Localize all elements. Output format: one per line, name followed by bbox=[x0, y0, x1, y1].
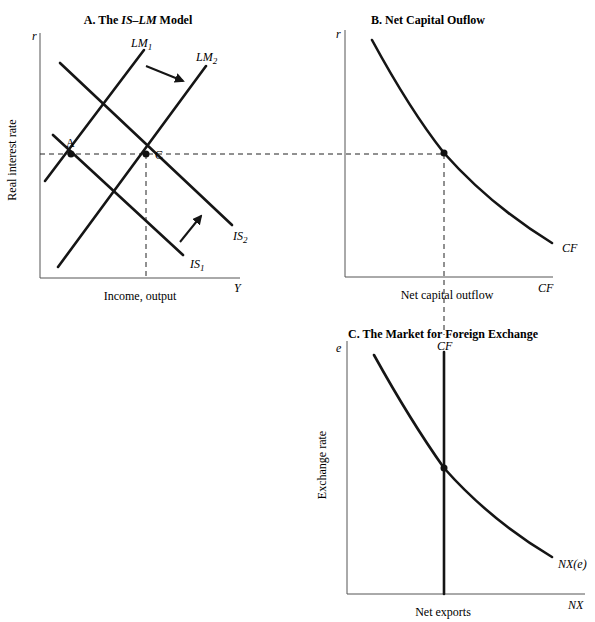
cf-curve bbox=[372, 40, 552, 243]
panel-c-foreign-exchange: C. The Market for Foreign Exchange e NX … bbox=[315, 327, 587, 619]
panel-b-equilibrium-marker bbox=[441, 150, 448, 157]
panel-a-x-label: Income, output bbox=[104, 289, 177, 303]
nx-curve bbox=[374, 355, 552, 557]
is1-label: IS1 bbox=[189, 257, 205, 273]
panel-c-y-symbol: e bbox=[336, 341, 342, 355]
panel-b-title: B. Net Capital Ouflow bbox=[371, 13, 485, 27]
is-shift-arrow-icon bbox=[180, 216, 201, 242]
point-a-label: A bbox=[66, 136, 75, 150]
panel-c-x-symbol: NX bbox=[567, 598, 584, 612]
panel-a-title: A. The IS–LM Model bbox=[84, 13, 193, 27]
lm1-curve bbox=[45, 50, 144, 181]
lm1-label: LM1 bbox=[130, 36, 152, 52]
panel-a-y-label: Real interest rate bbox=[5, 119, 19, 200]
figure: A. The IS–LM Model r Y Real interest rat… bbox=[0, 0, 595, 622]
panel-b-x-symbol: CF bbox=[538, 281, 554, 295]
panel-c-y-label: Exchange rate bbox=[315, 431, 329, 499]
point-c-label: C bbox=[155, 148, 163, 162]
panel-a-y-symbol: r bbox=[32, 29, 37, 43]
panel-c-equilibrium-marker bbox=[441, 465, 448, 472]
cf-vertical-label: CF bbox=[437, 339, 453, 353]
nx-curve-label: NX(e) bbox=[557, 557, 587, 571]
point-c-marker bbox=[143, 151, 150, 158]
lm-shift-arrow-icon bbox=[146, 66, 183, 81]
panel-a-is-lm: A. The IS–LM Model r Y Real interest rat… bbox=[5, 13, 443, 303]
panel-c-x-label: Net exports bbox=[415, 605, 471, 619]
point-a-marker bbox=[68, 151, 75, 158]
is2-label: IS2 bbox=[232, 229, 248, 245]
lm2-label: LM2 bbox=[195, 50, 218, 66]
panel-a-x-symbol: Y bbox=[234, 281, 242, 295]
panel-b-y-symbol: r bbox=[336, 27, 341, 41]
panel-b-x-label: Net capital outflow bbox=[401, 288, 494, 302]
cf-curve-label: CF bbox=[562, 241, 578, 255]
panel-b-net-capital-outflow: B. Net Capital Ouflow r CF Net capital o… bbox=[336, 13, 578, 335]
